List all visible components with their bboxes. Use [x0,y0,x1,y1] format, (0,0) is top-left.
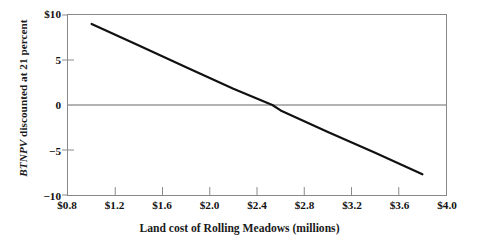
series-line-btnpv [92,24,423,174]
x-axis-title: Land cost of Rolling Meadows (millions) [0,222,479,235]
x-tick-label-0p8: $0.8 [45,199,89,211]
chart-page: BTNPV discounted at 21 percent $10 5 0 −… [0,0,479,251]
y-axis-title-roman: discounted at 21 percent [17,19,29,139]
y-tick-label-neg5: −5 [25,145,61,157]
plot-svg [68,15,446,195]
y-tick-label-0: 0 [25,99,61,111]
y-tick-marks-outer [62,15,68,195]
x-tick-label-2p0: $2.0 [188,199,232,211]
x-tick-label-1p6: $1.6 [140,199,184,211]
x-tick-label-4p0: $4.0 [425,199,469,211]
x-tick-label-2p4: $2.4 [235,199,279,211]
plot-area [67,14,447,196]
y-axis-title-wrap: BTNPV discounted at 21 percent [0,0,46,196]
y-tick-label-5: 5 [25,54,61,66]
x-tick-label-1p2: $1.2 [93,199,137,211]
x-tick-label-3p6: $3.6 [378,199,422,211]
x-tick-marks [115,187,399,195]
y-tick-label-10: $10 [25,8,61,20]
x-tick-label-2p8: $2.8 [283,199,327,211]
x-tick-label-3p2: $3.2 [330,199,374,211]
